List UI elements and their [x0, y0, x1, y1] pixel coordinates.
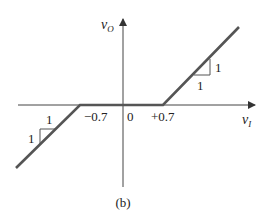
- transfer-curve: [16, 27, 239, 168]
- slope-right-run-label: 1: [197, 78, 204, 93]
- tick-label-pos: +0.7: [151, 109, 175, 124]
- slope-left-run-label: 1: [46, 112, 53, 127]
- transfer-characteristic-diagram: vO vI −0.7 0 +0.7 1 1 1 1 (b): [0, 0, 270, 221]
- figure-caption: (b): [115, 195, 130, 210]
- slope-left-rise-label: 1: [28, 131, 35, 146]
- y-axis-label: vO: [101, 17, 114, 34]
- slope-triangle-right: [194, 59, 210, 75]
- tick-label-neg: −0.7: [84, 109, 108, 124]
- x-axis-label: vI: [242, 112, 252, 129]
- tick-label-zero: 0: [127, 109, 134, 124]
- slope-right-rise-label: 1: [215, 60, 222, 75]
